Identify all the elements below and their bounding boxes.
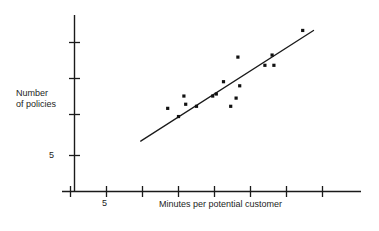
data-point	[238, 84, 241, 87]
data-point	[272, 64, 275, 67]
data-point	[229, 105, 232, 108]
data-point	[235, 97, 238, 100]
data-point	[211, 94, 214, 97]
y-axis-label-line-2: of policies	[16, 99, 56, 110]
x-axis-tick-label-5: 5	[102, 198, 107, 209]
trend-line	[141, 30, 314, 141]
data-point	[236, 56, 239, 59]
x-axis-group	[62, 186, 361, 197]
x-axis-label: Minutes per potential customer	[159, 199, 282, 210]
data-point	[184, 103, 187, 106]
data-point	[166, 107, 169, 110]
y-axis-tick-label-5: 5	[49, 150, 54, 161]
data-point	[301, 29, 304, 32]
y-axis-group	[69, 15, 80, 192]
data-points-group	[166, 29, 304, 118]
data-point	[271, 53, 274, 56]
data-point	[263, 64, 266, 67]
plot-canvas	[0, 0, 379, 231]
data-point	[195, 105, 198, 108]
data-point	[182, 94, 185, 97]
data-point	[222, 80, 225, 83]
data-point	[177, 115, 180, 118]
y-axis-label: Number of policies	[16, 88, 56, 110]
y-axis-label-line-1: Number	[16, 88, 56, 99]
data-point	[215, 92, 218, 95]
scatter-plot-figure: Number of policies 5 5 Minutes per poten…	[0, 0, 379, 231]
